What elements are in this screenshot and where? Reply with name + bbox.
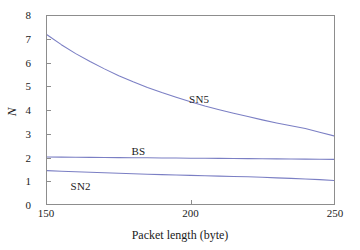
series-line-bs (47, 157, 334, 159)
y-tick-label: 1 (26, 176, 32, 187)
x-tick-label: 200 (182, 208, 199, 219)
series-line-sn5 (47, 35, 334, 136)
y-tick-label: 0 (26, 200, 32, 211)
y-tick-mark (46, 86, 51, 87)
x-tick-label: 150 (38, 208, 55, 219)
series-lines (47, 16, 334, 204)
y-tick-label: 6 (26, 57, 32, 68)
y-tick-mark (46, 134, 51, 135)
series-label-sn2: SN2 (71, 180, 91, 192)
y-tick-mark (46, 110, 51, 111)
plot-area (46, 15, 335, 205)
x-axis-title: Packet length (byte) (0, 228, 360, 243)
series-label-bs: BS (132, 145, 146, 157)
x-axis-ticks: 150200250 (46, 208, 335, 224)
y-tick-label: 3 (26, 128, 32, 139)
series-label-sn5: SN5 (189, 93, 209, 105)
x-tick-label: 250 (327, 208, 344, 219)
y-tick-label: 4 (26, 105, 32, 116)
chart-figure: 012345678 N 150200250 Packet length (byt… (0, 0, 360, 250)
y-tick-mark (46, 158, 51, 159)
y-tick-mark (46, 63, 51, 64)
y-axis-title: N (4, 108, 20, 117)
y-tick-label: 2 (26, 152, 32, 163)
y-tick-label: 7 (26, 33, 32, 44)
y-tick-mark (46, 39, 51, 40)
y-tick-mark (46, 181, 51, 182)
y-tick-label: 8 (26, 10, 32, 21)
y-tick-label: 5 (26, 81, 32, 92)
x-tick-mark (191, 200, 192, 205)
